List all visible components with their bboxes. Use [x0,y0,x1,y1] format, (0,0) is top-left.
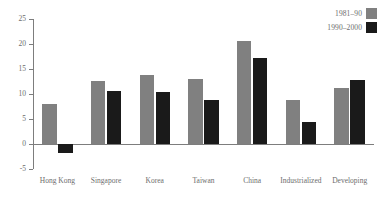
y-tick-label: 5 [8,114,26,123]
bar-series-0 [140,75,155,144]
x-axis-label: Hong Kong [40,176,75,185]
bar-series-0 [237,41,252,144]
y-tick-label: 15 [8,64,26,73]
bar-series-1 [156,92,171,144]
y-tick-label: 0 [8,139,26,148]
bar-series-1 [302,122,317,144]
bar-series-0 [91,81,106,144]
x-axis-label: Singapore [91,176,121,185]
y-tick-label: 20 [8,39,26,48]
y-tick-mark [29,169,33,170]
y-tick-label: 10 [8,89,26,98]
bar-series-1 [253,58,268,144]
bar-chart: 1981–90 1990–2000 -50510152025 Hong Kong… [0,0,381,197]
x-axis-label: Korea [146,176,164,185]
bar-series-0 [286,100,301,144]
bar-series-0 [188,79,203,144]
bars-layer [33,19,374,169]
bar-series-0 [334,88,349,144]
bar-series-1 [204,100,219,144]
x-axis-label: China [243,176,261,185]
x-axis-label: Taiwan [193,176,215,185]
y-tick-label: -5 [8,164,26,173]
bar-series-0 [42,104,57,144]
bar-series-1 [350,80,365,144]
x-axis-label: Developing [332,176,367,185]
plot-area: -50510152025 [0,0,381,197]
bar-series-1 [58,144,73,153]
bar-series-1 [107,91,122,144]
x-axis-label: Industrialized [280,176,321,185]
y-tick-label: 25 [8,14,26,23]
x-axis-category-labels: Hong KongSingaporeKoreaTaiwanChinaIndust… [33,176,374,190]
